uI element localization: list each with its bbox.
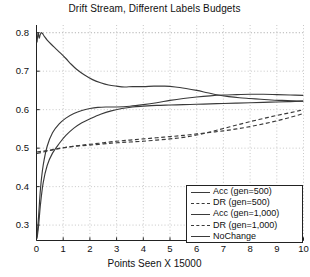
chart-legend: Acc (gen=500)DR (gen=500)Acc (gen=1,000)… <box>186 185 303 243</box>
x-tick-label: 0 <box>27 243 47 254</box>
chart-figure: Drift Stream, Different Labels Budgets 0… <box>0 0 309 277</box>
y-tick-label: 0.8 <box>3 27 29 38</box>
legend-item: NoChange <box>187 231 302 242</box>
legend-item-label: Acc (gen=1,000) <box>211 209 279 218</box>
y-tick-label: 0.6 <box>3 104 29 115</box>
legend-item: DR (gen=500) <box>187 197 302 208</box>
legend-item: Acc (gen=1,000) <box>187 208 302 219</box>
y-tick-label: 0.4 <box>3 181 29 192</box>
x-tick-label: 1 <box>53 243 73 254</box>
legend-item-label: DR (gen=1,000) <box>211 221 277 230</box>
x-tick-label: 2 <box>80 243 100 254</box>
legend-item-label: DR (gen=500) <box>211 198 270 207</box>
legend-line-sample-icon <box>190 221 211 230</box>
x-tick-label: 9 <box>267 243 287 254</box>
x-tick-label: 10 <box>294 243 310 254</box>
x-tick-label: 3 <box>107 243 127 254</box>
legend-line-sample-icon <box>190 209 211 218</box>
legend-item-label: Acc (gen=500) <box>211 187 272 196</box>
legend-item: Acc (gen=500) <box>187 186 302 197</box>
y-tick-label: 0.3 <box>3 219 29 230</box>
legend-item: DR (gen=1,000) <box>187 220 302 231</box>
y-tick-label: 0.5 <box>3 142 29 153</box>
x-tick-label: 8 <box>240 243 260 254</box>
legend-line-sample-icon <box>190 232 211 241</box>
x-axis-label: Points Seen X 15000 <box>0 258 309 269</box>
x-tick-label: 6 <box>187 243 207 254</box>
legend-item-label: NoChange <box>211 232 256 241</box>
y-tick-label: 0.7 <box>3 65 29 76</box>
legend-line-sample-icon <box>190 198 211 207</box>
x-tick-label: 5 <box>160 243 180 254</box>
x-tick-label: 4 <box>133 243 153 254</box>
x-tick-label: 7 <box>213 243 233 254</box>
legend-line-sample-icon <box>190 187 211 196</box>
